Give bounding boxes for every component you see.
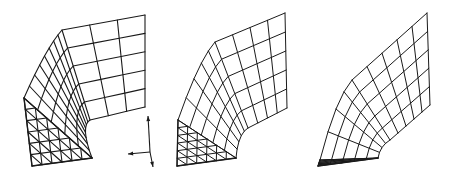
- coordinate-axes-icon: [128, 116, 154, 167]
- mesh-wireframe-2: [177, 13, 287, 166]
- mesh-wireframe-1: [24, 15, 145, 166]
- mesh-figure: [0, 0, 452, 177]
- figure-canvas: [0, 0, 452, 177]
- mesh-wireframe-3: [318, 13, 430, 166]
